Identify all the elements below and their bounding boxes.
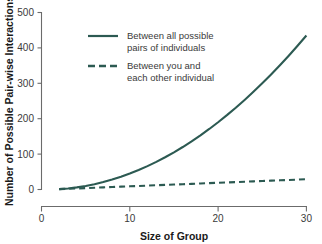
y-axis-ticks xyxy=(38,13,42,190)
y-axis-title: Number of Possible Pair-wise Interaction… xyxy=(3,0,15,206)
x-axis-title: Size of Group xyxy=(140,230,208,242)
x-axis-ticks xyxy=(42,207,307,212)
series-line-all-pairs xyxy=(59,36,306,190)
y-tick-label: 100 xyxy=(17,149,34,160)
y-tick-label: 300 xyxy=(17,78,34,89)
y-tick-label: 200 xyxy=(17,113,34,124)
legend-label-0-line1: Between all possible xyxy=(127,30,214,41)
chart-container: 500 400 300 200 100 0 0 10 20 30 Size of… xyxy=(0,0,322,244)
legend-label-1-line1: Between you and xyxy=(127,60,200,71)
y-tick-label: 400 xyxy=(17,42,34,53)
x-tick-label: 20 xyxy=(213,213,225,224)
y-tick-label: 500 xyxy=(17,7,34,18)
x-tick-label: 30 xyxy=(301,213,313,224)
chart-legend: Between all possible pairs of individual… xyxy=(88,30,214,83)
x-tick-label: 10 xyxy=(124,213,136,224)
legend-label-0-line2: pairs of individuals xyxy=(127,42,205,53)
x-axis-tick-labels: 0 10 20 30 xyxy=(39,213,313,224)
y-tick-label: 0 xyxy=(28,184,34,195)
pairwise-interactions-chart: 500 400 300 200 100 0 0 10 20 30 Size of… xyxy=(0,0,322,244)
y-axis-tick-labels: 500 400 300 200 100 0 xyxy=(17,7,34,195)
x-tick-label: 0 xyxy=(39,213,45,224)
legend-label-1-line2: each other individual xyxy=(127,72,214,83)
